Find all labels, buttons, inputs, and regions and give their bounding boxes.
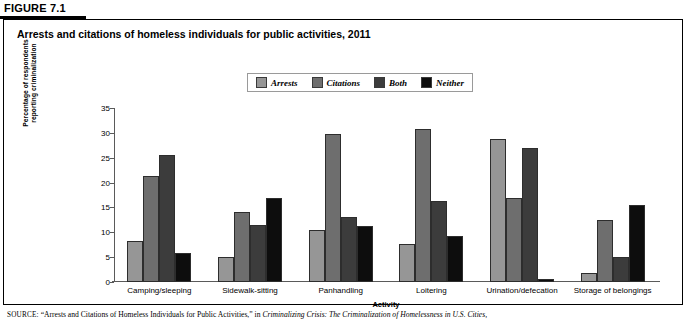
bar-group bbox=[477, 108, 568, 282]
bar-arrests[interactable] bbox=[218, 257, 234, 282]
bar-both[interactable] bbox=[159, 155, 175, 282]
x-tick-label: Urination/defecation bbox=[486, 286, 557, 295]
bar-both[interactable] bbox=[522, 148, 538, 282]
y-tick-label: 25 bbox=[101, 153, 110, 162]
x-tick-label: Sidewalk-sitting bbox=[222, 286, 278, 295]
bar-both[interactable] bbox=[250, 225, 266, 282]
x-tick-label: Storage of belongings bbox=[574, 286, 652, 295]
y-tick-label: 10 bbox=[101, 228, 110, 237]
bar-arrests[interactable] bbox=[309, 230, 325, 282]
plot-area: Activity 05101520253035Camping/sleepingS… bbox=[114, 108, 658, 282]
source-note: SOURCE: “Arrests and Citations of Homele… bbox=[7, 310, 683, 320]
figure-panel: Arrests and citations of homeless indivi… bbox=[3, 19, 683, 305]
x-tick-label: Loitering bbox=[416, 286, 447, 295]
bar-neither[interactable] bbox=[629, 205, 645, 282]
bar-citations[interactable] bbox=[234, 212, 250, 282]
bar-group bbox=[567, 108, 658, 282]
bar-neither[interactable] bbox=[175, 253, 191, 282]
bar-both[interactable] bbox=[613, 257, 629, 282]
bar-group bbox=[295, 108, 386, 282]
source-publication: Criminalizing Crisis: The Criminalizatio… bbox=[262, 310, 487, 319]
bar-citations[interactable] bbox=[325, 134, 341, 282]
x-tick-label: Camping/sleeping bbox=[127, 286, 191, 295]
source-quoted-title: “Arrests and Citations of Homeless Indiv… bbox=[41, 310, 253, 319]
y-tick-label: 30 bbox=[101, 128, 110, 137]
bar-citations[interactable] bbox=[506, 198, 522, 283]
plot-wrapper: Percentage of respondents reporting crim… bbox=[4, 20, 684, 306]
bar-arrests[interactable] bbox=[127, 241, 143, 282]
y-tick-mark bbox=[110, 282, 114, 283]
bar-group bbox=[114, 108, 205, 282]
bar-citations[interactable] bbox=[597, 220, 613, 282]
y-tick-label: 20 bbox=[101, 178, 110, 187]
bar-arrests[interactable] bbox=[581, 273, 597, 282]
bar-group bbox=[205, 108, 296, 282]
bar-citations[interactable] bbox=[143, 176, 159, 282]
bar-both[interactable] bbox=[341, 217, 357, 282]
bar-both[interactable] bbox=[431, 201, 447, 282]
figure-label: FIGURE 7.1 bbox=[4, 2, 66, 14]
bar-arrests[interactable] bbox=[490, 139, 506, 282]
bar-citations[interactable] bbox=[415, 129, 431, 282]
source-connector: in bbox=[255, 310, 261, 319]
bar-group bbox=[386, 108, 477, 282]
y-axis-title: Percentage of respondents reporting crim… bbox=[22, 28, 38, 138]
bar-arrests[interactable] bbox=[399, 244, 415, 282]
y-tick-label: 35 bbox=[101, 104, 110, 113]
x-axis-title: Activity bbox=[114, 300, 658, 309]
y-tick-label: 15 bbox=[101, 203, 110, 212]
bar-neither[interactable] bbox=[357, 226, 373, 282]
bar-neither[interactable] bbox=[538, 279, 554, 282]
source-prefix: SOURCE: bbox=[7, 311, 39, 319]
bar-neither[interactable] bbox=[266, 198, 282, 283]
x-tick-label: Panhandling bbox=[318, 286, 362, 295]
bar-neither[interactable] bbox=[447, 236, 463, 282]
